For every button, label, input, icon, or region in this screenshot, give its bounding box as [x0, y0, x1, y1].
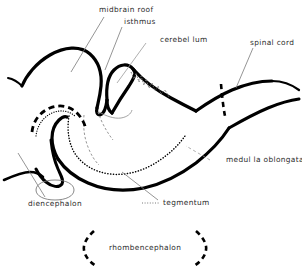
label-rhombencephalon: rhombencephalon [109, 244, 181, 251]
cerebellum-ventral-edge [112, 69, 135, 113]
diencephalon-stalk-hook [36, 140, 63, 186]
leader-line-isthmus [105, 27, 122, 70]
ventricle-thin-dashed-line-a [84, 115, 99, 165]
medulla-roof-outline [196, 81, 272, 111]
tegmentum-ventral-outline [58, 128, 229, 190]
cerebellum-outline [107, 65, 196, 111]
rhombencephalon-left-brace [84, 231, 96, 266]
label-midbrain-roof: midbrain roof [99, 6, 153, 13]
rhombencephalon-right-brace [194, 231, 206, 266]
brain-anatomy-figure: midbrain roof isthmus cerebel lum spinal… [0, 0, 302, 268]
hypophysis-oval [36, 180, 74, 200]
midbrain-roof-outline [22, 48, 101, 108]
midbrain-roof-left-tail [8, 78, 22, 86]
spinal-cord-ventral-line [229, 99, 299, 128]
label-isthmus: isthmus [124, 18, 156, 25]
leader-line-spinal-cord [236, 48, 253, 88]
label-cerebellum: cerebel lum [160, 36, 207, 43]
medulla-spinal-boundary-dashed-line [221, 84, 225, 116]
label-tegmentum: tegmentum [163, 199, 210, 206]
label-medulla-oblongata: medul la oblongata [226, 156, 302, 163]
diencephalon-left-tail [4, 172, 43, 180]
cerebellum-inferior-fold [107, 100, 112, 113]
spinal-cord-dorsal-line [272, 81, 299, 90]
label-diencephalon: diencephalon [28, 200, 82, 207]
label-spinal-cord: spinal cord [250, 39, 294, 46]
